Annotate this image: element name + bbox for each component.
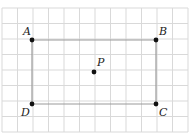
point-a (30, 38, 35, 43)
grid-diagram: ABCDP (0, 0, 191, 139)
label-a: A (22, 25, 31, 38)
point-p (92, 70, 97, 75)
point-c (154, 102, 159, 107)
label-d: D (20, 106, 30, 119)
label-p: P (96, 56, 105, 69)
point-b (154, 38, 159, 43)
point-d (30, 102, 35, 107)
label-b: B (158, 25, 167, 38)
label-c: C (159, 106, 168, 119)
